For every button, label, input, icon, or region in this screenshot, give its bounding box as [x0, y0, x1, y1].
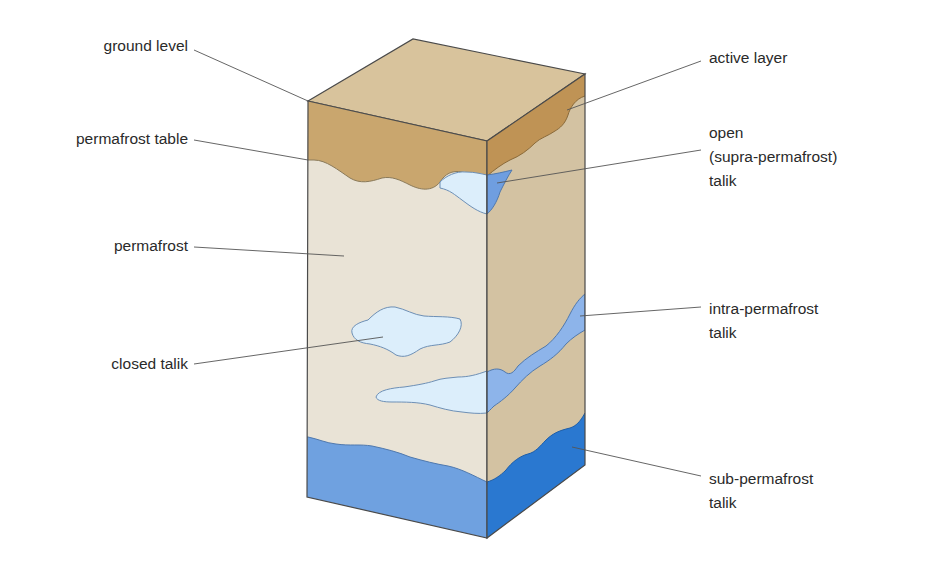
leader-ground-level — [194, 50, 308, 101]
label-intra-permafrost-talik: intra-permafrost talik — [709, 297, 818, 345]
label-intra-line2: talik — [709, 321, 818, 345]
label-closed-talik: closed talik — [58, 356, 188, 372]
label-ground-level: ground level — [58, 38, 188, 54]
leader-permafrost-table — [194, 140, 308, 160]
label-open-talik-line2: (supra-permafrost) — [709, 145, 837, 169]
label-sub-line1: sub-permafrost — [709, 467, 813, 491]
label-open-talik-line3: talik — [709, 169, 837, 193]
label-permafrost-table: permafrost table — [20, 131, 188, 147]
label-open-talik-line1: open — [709, 121, 837, 145]
leader-intra-talik — [580, 307, 701, 316]
leader-sub-talik — [572, 447, 701, 476]
front-face — [300, 95, 495, 545]
label-sub-line2: talik — [709, 491, 813, 515]
label-open-talik: open (supra-permafrost) talik — [709, 121, 837, 193]
label-permafrost: permafrost — [58, 238, 188, 254]
label-active-layer: active layer — [709, 50, 787, 66]
leader-active-layer — [567, 61, 701, 110]
label-intra-line1: intra-permafrost — [709, 297, 818, 321]
label-sub-permafrost-talik: sub-permafrost talik — [709, 467, 813, 515]
